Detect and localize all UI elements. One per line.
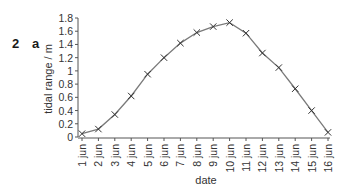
x-tick-label: 8 jun (191, 144, 203, 167)
data-point-x-marker (325, 129, 331, 135)
x-axis-title: date (195, 174, 216, 186)
x-tick-label: 16 jun (322, 144, 334, 173)
x-tick-label: 13 jun (273, 144, 285, 173)
series-line (82, 23, 328, 134)
x-tick-label: 14 jun (289, 144, 301, 173)
data-series (79, 19, 331, 136)
data-point-x-marker (276, 64, 282, 70)
x-tick-label: 6 jun (158, 144, 170, 167)
y-tick-label: 1.4 (58, 38, 73, 50)
data-point-x-marker (161, 54, 167, 60)
x-tick-label: 9 jun (207, 144, 219, 167)
y-tick-label: 1.6 (58, 25, 73, 37)
data-point-x-marker (177, 40, 183, 46)
y-tick-label: 0.8 (58, 78, 73, 90)
data-point-x-marker (194, 29, 200, 35)
y-tick-label: 0.2 (58, 118, 73, 130)
data-point-x-marker (259, 50, 265, 56)
y-axis: 00.20.40.60.811.21.41.61.8 (58, 12, 78, 143)
x-tick-label: 15 jun (306, 144, 318, 173)
x-tick-label: 4 jun (125, 144, 137, 167)
y-tick-label: 0.4 (58, 105, 73, 117)
data-point-x-marker (144, 71, 150, 77)
data-point-x-marker (128, 93, 134, 99)
y-tick-label: 1 (67, 65, 73, 77)
x-tick-label: 10 jun (224, 144, 236, 173)
data-point-x-marker (292, 86, 298, 92)
x-tick-label: 1 jun (76, 144, 88, 167)
data-point-x-marker (112, 111, 118, 117)
y-axis-title: tidal range / m (42, 44, 54, 114)
y-tick-label: 1.8 (58, 12, 73, 24)
data-point-x-marker (308, 107, 314, 113)
x-tick-label: 12 jun (256, 144, 268, 173)
y-tick-label: 0 (67, 131, 73, 143)
x-axis: 1 jun2 jun3 jun4 jun5 jun6 jun7 jun8 jun… (76, 138, 334, 173)
tidal-range-chart: 00.20.40.60.811.21.41.61.8 1 jun2 jun3 j… (0, 0, 345, 196)
x-tick-label: 3 jun (109, 144, 121, 167)
y-tick-label: 0.6 (58, 91, 73, 103)
x-tick-label: 5 jun (142, 144, 154, 167)
y-tick-label: 1.2 (58, 52, 73, 64)
x-tick-label: 11 jun (240, 144, 252, 172)
x-tick-label: 7 jun (174, 144, 186, 167)
x-tick-label: 2 jun (92, 144, 104, 167)
data-point-x-marker (243, 30, 249, 36)
